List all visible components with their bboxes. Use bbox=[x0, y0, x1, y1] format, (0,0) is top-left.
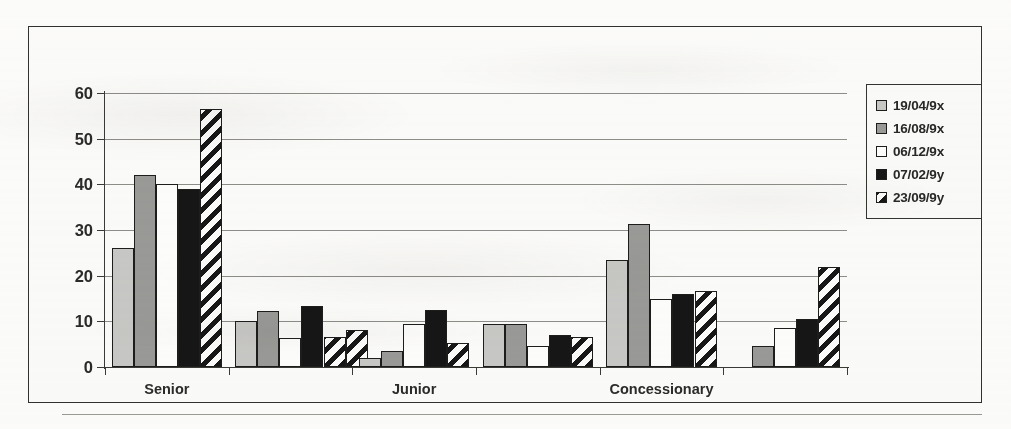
legend-label: 19/04/9x bbox=[893, 98, 944, 113]
bar-group-0 bbox=[105, 93, 229, 367]
bar-19-04-9x-group-0 bbox=[112, 248, 134, 367]
bar-06-12-9x-group-1 bbox=[279, 338, 301, 367]
page-horizontal-rule bbox=[62, 414, 982, 415]
legend-swatch-icon-light-gray bbox=[876, 100, 887, 111]
figure-frame: 0102030405060 SeniorJuniorConcessionary bbox=[28, 26, 982, 403]
bar-06-12-9x-group-4 bbox=[650, 299, 672, 368]
x-tick-mark-0 bbox=[105, 367, 106, 375]
legend-label: 23/09/9y bbox=[893, 190, 944, 205]
x-category-label-junior: Junior bbox=[392, 381, 436, 397]
bar-07-02-9y-group-5 bbox=[796, 319, 818, 367]
bar-23-09-9y-group-1 bbox=[324, 337, 346, 367]
x-tick-mark-6 bbox=[847, 367, 848, 375]
bar-16-08-9x-group-4 bbox=[628, 224, 650, 367]
legend-swatch-icon-black bbox=[876, 169, 887, 180]
x-tick-mark-5 bbox=[723, 367, 724, 375]
legend-item-23-09-9y[interactable]: 23/09/9y bbox=[876, 186, 973, 209]
x-category-label-concessionary: Concessionary bbox=[610, 381, 714, 397]
x-tick-mark-1 bbox=[229, 367, 230, 375]
y-tick-mark-30 bbox=[97, 230, 105, 231]
legend-label: 06/12/9x bbox=[893, 144, 944, 159]
bar-19-04-9x-group-1 bbox=[235, 321, 257, 367]
bar-group-5 bbox=[723, 93, 847, 367]
y-tick-mark-10 bbox=[97, 321, 105, 322]
y-tick-mark-50 bbox=[97, 139, 105, 140]
bar-23-09-9y-group-0 bbox=[200, 109, 222, 367]
legend-label: 07/02/9y bbox=[893, 167, 944, 182]
x-tick-mark-3 bbox=[476, 367, 477, 375]
legend-label: 16/08/9x bbox=[893, 121, 944, 136]
bar-19-04-9x-group-4 bbox=[606, 260, 628, 367]
legend-swatch-icon-diagonal-stripe bbox=[876, 192, 887, 203]
bar-23-09-9y-group-4 bbox=[695, 291, 717, 367]
bar-07-02-9y-group-2 bbox=[425, 310, 447, 367]
bar-19-04-9x-group-2 bbox=[359, 358, 381, 367]
bar-07-02-9y-group-3 bbox=[549, 335, 571, 367]
chart-legend: 19/04/9x16/08/9x06/12/9x07/02/9y23/09/9y bbox=[866, 84, 982, 219]
legend-item-16-08-9x[interactable]: 16/08/9x bbox=[876, 117, 973, 140]
bar-07-02-9y-group-0 bbox=[178, 189, 200, 367]
y-tick-label-40: 40 bbox=[75, 175, 93, 194]
bar-06-12-9x-group-3 bbox=[527, 346, 549, 367]
legend-item-19-04-9x[interactable]: 19/04/9x bbox=[876, 94, 973, 117]
bar-16-08-9x-group-5 bbox=[752, 346, 774, 367]
y-tick-label-50: 50 bbox=[75, 129, 93, 148]
bar-16-08-9x-group-2 bbox=[381, 351, 403, 367]
bar-16-08-9x-group-0 bbox=[134, 175, 156, 367]
y-tick-mark-60 bbox=[97, 93, 105, 94]
y-tick-label-60: 60 bbox=[75, 84, 93, 103]
bar-06-12-9x-group-0 bbox=[156, 184, 178, 367]
x-category-label-senior: Senior bbox=[144, 381, 189, 397]
bar-group-2 bbox=[352, 93, 476, 367]
bar-group-3 bbox=[476, 93, 600, 367]
y-tick-label-20: 20 bbox=[75, 266, 93, 285]
bar-06-12-9x-group-2 bbox=[403, 324, 425, 367]
bar-16-08-9x-group-3 bbox=[505, 324, 527, 367]
bar-group-4 bbox=[600, 93, 724, 367]
y-tick-label-10: 10 bbox=[75, 312, 93, 331]
legend-item-06-12-9x[interactable]: 06/12/9x bbox=[876, 140, 973, 163]
bar-23-09-9y-group-5 bbox=[818, 267, 840, 367]
y-tick-mark-20 bbox=[97, 276, 105, 277]
y-tick-mark-0 bbox=[97, 367, 105, 368]
x-axis-line bbox=[97, 367, 849, 368]
legend-swatch-icon-white bbox=[876, 146, 887, 157]
y-tick-label-0: 0 bbox=[84, 358, 93, 377]
plot-area: 0102030405060 SeniorJuniorConcessionary bbox=[105, 93, 847, 367]
x-tick-mark-4 bbox=[600, 367, 601, 375]
bar-group-1 bbox=[229, 93, 353, 367]
legend-swatch-icon-mid-gray bbox=[876, 123, 887, 134]
bar-07-02-9y-group-1 bbox=[301, 306, 323, 367]
bar-07-02-9y-group-4 bbox=[672, 294, 694, 367]
y-tick-mark-40 bbox=[97, 184, 105, 185]
bar-23-09-9y-group-3 bbox=[571, 337, 593, 367]
x-tick-mark-2 bbox=[352, 367, 353, 375]
legend-item-07-02-9y[interactable]: 07/02/9y bbox=[876, 163, 973, 186]
bar-19-04-9x-group-3 bbox=[483, 324, 505, 367]
bar-23-09-9y-group-2 bbox=[447, 343, 469, 367]
bar-06-12-9x-group-5 bbox=[774, 328, 796, 367]
y-tick-label-30: 30 bbox=[75, 221, 93, 240]
bar-16-08-9x-group-1 bbox=[257, 311, 279, 367]
